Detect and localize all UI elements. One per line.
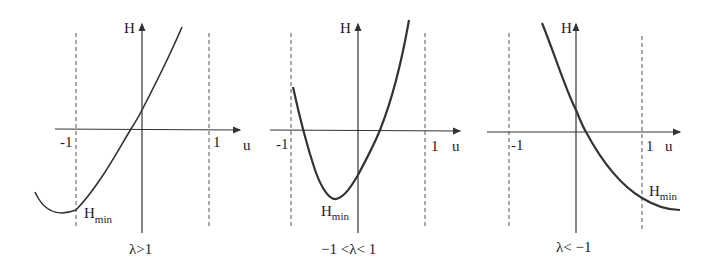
tick-pos1: 1 <box>431 138 439 154</box>
hmin-label: Hmin <box>649 183 677 202</box>
x-axis-label: u <box>452 138 460 154</box>
tick-pos1: 1 <box>213 134 221 150</box>
h-curve <box>542 23 680 210</box>
h-curve <box>35 27 182 213</box>
panel-lambda-between: H -1 1 Hmin −1 <λ< 1 <box>270 20 460 257</box>
tick-neg1: -1 <box>511 137 524 153</box>
hmin-label: Hmin <box>321 203 349 222</box>
panel-lambda-lt-neg1: H -1 1 Hmin u λ< −1 <box>487 20 680 255</box>
y-axis-label: H <box>340 20 351 36</box>
panel-caption: −1 <λ< 1 <box>321 241 376 257</box>
panel-caption: λ>1 <box>129 241 152 257</box>
x-axis-label: u <box>243 137 251 153</box>
tick-pos1: 1 <box>646 138 654 154</box>
diagram-canvas: H -1 1 Hmin λ>1 u H -1 1 Hmin −1 <λ< 1 u… <box>0 0 719 276</box>
hmin-label: Hmin <box>84 205 112 225</box>
panel-caption: λ< −1 <box>556 239 591 255</box>
y-axis-label: H <box>561 20 572 36</box>
x-axis <box>270 130 460 131</box>
tick-neg1: -1 <box>60 134 73 150</box>
x-axis-label: u <box>665 138 673 154</box>
h-curve <box>293 20 409 199</box>
tick-neg1: -1 <box>276 136 289 152</box>
y-axis-label: H <box>124 20 135 36</box>
x-axis <box>55 129 240 130</box>
panel-lambda-gt-1: H -1 1 Hmin λ>1 <box>35 20 240 257</box>
